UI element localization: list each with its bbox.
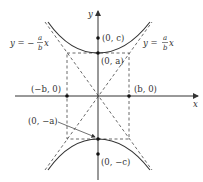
svg-text:x: x <box>44 38 49 48</box>
svg-text:y =: y = <box>142 38 158 48</box>
svg-text:b: b <box>163 44 168 52</box>
label-focus-top: (0, c) <box>102 33 124 43</box>
svg-text:a: a <box>163 34 167 42</box>
point-co-vertex-right <box>127 94 131 98</box>
label-co-vertex-left: (−b, 0) <box>31 84 61 94</box>
point-vertex-bottom <box>96 137 100 141</box>
label-vertex-bottom: (0, −a) <box>28 116 58 126</box>
svg-text:x: x <box>169 38 174 48</box>
point-focus-bottom <box>96 152 100 156</box>
svg-text:a: a <box>38 34 42 42</box>
hyperbola-diagram: y x (0, c) (0, a) (−b, 0) (b, 0) (0, −a)… <box>0 0 203 182</box>
label-vertex-top: (0, a) <box>101 56 124 66</box>
equation-right-asymptote: y = a b x <box>142 34 174 52</box>
y-axis-label: y <box>87 9 93 19</box>
point-co-vertex-left <box>65 94 69 98</box>
equation-left-asymptote: y = − a b x <box>9 34 49 52</box>
pointer-arrow-vertex-bottom <box>58 122 95 137</box>
point-vertex-top <box>96 51 100 55</box>
label-co-vertex-right: (b, 0) <box>134 84 157 94</box>
svg-text:y = −: y = − <box>9 38 34 48</box>
svg-text:b: b <box>38 44 43 52</box>
x-axis-label: x <box>193 99 198 109</box>
point-focus-top <box>96 36 100 40</box>
label-focus-bottom: (0, −c) <box>101 157 130 167</box>
